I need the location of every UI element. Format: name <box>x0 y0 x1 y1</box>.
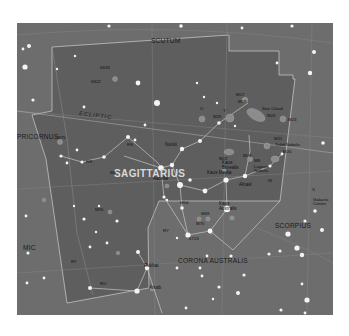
variable-label-y: Y <box>223 109 226 113</box>
object-label-m8-desc: Lagoon Nebula <box>254 165 274 174</box>
object-label-m8: M8 <box>254 159 260 163</box>
variable-label-rt: RT <box>71 260 77 264</box>
variable-label-ru: RU <box>100 282 106 286</box>
star-label-arkab: Arkab <box>149 286 161 291</box>
constellation-label-scorpius: SCORPIUS <box>275 223 311 230</box>
constellation-label-capricornus: PRICORNUS <box>17 134 58 141</box>
star-chart: SCUTUM PRICORNUS SAGITTARIUS MIC SCORPIU… <box>17 23 333 315</box>
star-label-nunki: Nunki <box>165 143 177 148</box>
star-label-kaus-australis: Kaus Australis <box>219 202 247 211</box>
object-label-m20-desc: Trifid Nebula <box>275 143 300 147</box>
variable-label-u: U <box>200 107 203 111</box>
object-label-m55: M55 <box>95 208 104 212</box>
object-label-m18: M18 <box>238 100 247 104</box>
variable-label-rr: RR <box>86 160 92 164</box>
object-label-m25: M25 <box>213 115 222 119</box>
object-label-m70: M70 <box>196 222 205 226</box>
variable-label-rs: RS <box>127 143 133 147</box>
constellation-label-corona-australis: CORONA AUSTRALIS <box>178 258 248 265</box>
object-label-m17: M17 <box>236 93 245 97</box>
constellation-label-microscopium: MIC <box>23 245 36 252</box>
object-label-ngc6822: 6822 <box>91 80 101 84</box>
object-label-m23: M23 <box>288 118 297 122</box>
object-label-m24-desc: Star Cloud <box>262 107 283 111</box>
star-label-ascella: Ascella <box>153 177 168 182</box>
object-label-m22: M22 <box>219 157 228 161</box>
object-label-m75: M75 <box>57 136 66 140</box>
star-label-kaus-media: Kaus Media <box>207 171 231 176</box>
variable-label-ry: RY <box>163 229 169 233</box>
star-label-rukbat: Rukbat <box>144 264 159 269</box>
constellation-label-sagittarius: SAGITTARIUS <box>114 169 185 179</box>
star-label-alnasl: Alnasl <box>239 183 252 188</box>
object-label-galactic-center: Galactic Center <box>313 198 331 207</box>
object-label-ngc6723: 6723 <box>189 237 199 241</box>
star-label-kaus-borealis: Kaus Borealis <box>222 161 246 170</box>
variable-label-w: W <box>268 179 272 183</box>
object-label-m54: M54 <box>180 201 189 205</box>
object-label-m20: M20 <box>283 150 292 154</box>
object-label-m28: M28 <box>243 154 252 158</box>
object-label-ngc6818: 6818 <box>100 66 110 70</box>
object-label-m21: M21 <box>274 137 283 141</box>
variable-label-x: X <box>312 188 315 192</box>
object-label-m69: M69 <box>201 212 210 216</box>
constellation-label-scutum: SCUTUM <box>151 38 180 45</box>
object-label-m24: M24 <box>267 114 276 118</box>
variable-label-bb: BB <box>110 171 116 175</box>
